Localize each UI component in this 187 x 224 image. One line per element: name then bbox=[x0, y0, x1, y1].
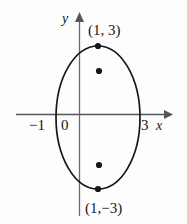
point-vertex-top bbox=[95, 43, 101, 49]
point-label-top: (1, 3) bbox=[88, 23, 121, 38]
point-focus-lower bbox=[96, 162, 102, 168]
x-tick-label-three: 3 bbox=[141, 118, 149, 133]
x-axis-arrow-icon bbox=[164, 110, 173, 119]
x-tick-label-neg-one: −1 bbox=[29, 118, 45, 133]
origin-label: 0 bbox=[61, 118, 69, 133]
ellipse-graph-figure: y x −1 0 3 (1, 3) (1,−3) bbox=[0, 0, 187, 224]
y-axis-arrow-icon bbox=[75, 12, 84, 22]
point-label-bottom: (1,−3) bbox=[85, 201, 122, 216]
point-vertex-bottom bbox=[95, 186, 101, 192]
y-axis-label: y bbox=[62, 12, 68, 26]
x-axis-label: x bbox=[156, 119, 162, 133]
point-focus-upper bbox=[96, 68, 102, 74]
